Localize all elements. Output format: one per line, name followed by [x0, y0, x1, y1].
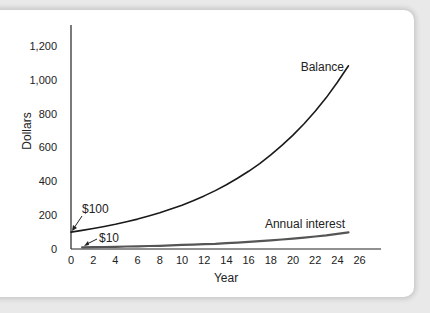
x-tick-label: 16 [242, 254, 254, 266]
y-tick-label: 600 [39, 141, 57, 153]
y-tick-label: 800 [39, 108, 57, 120]
x-axis-label: Year [214, 271, 238, 285]
x-tick-label: 18 [265, 254, 277, 266]
y-tick-label: 200 [39, 209, 57, 221]
x-tick-label: 14 [220, 254, 232, 266]
x-tick-label: 8 [157, 254, 163, 266]
compound-interest-chart: 02004006008001,0001,200 0246810121416182… [0, 0, 430, 313]
balance-series-label: Balance [301, 60, 345, 74]
y-tick-label: 0 [51, 243, 57, 255]
x-tick-label: 4 [112, 254, 118, 266]
x-tick-label: 24 [331, 254, 343, 266]
y-axis-label: Dollars [20, 112, 34, 149]
x-tick-label: 22 [309, 254, 321, 266]
balance-line [71, 66, 349, 232]
x-tick-label: 20 [287, 254, 299, 266]
axes [71, 25, 381, 249]
x-tick-label: 10 [176, 254, 188, 266]
annual-interest-line [82, 232, 348, 247]
x-tick-label: 2 [90, 254, 96, 266]
start-balance-annotation: $100 [82, 202, 109, 216]
interest-series-label: Annual interest [265, 217, 346, 231]
y-tick-label: 1,200 [29, 40, 57, 52]
x-tick-label: 12 [198, 254, 210, 266]
y-tick-label: 400 [39, 175, 57, 187]
x-tick-label: 0 [68, 254, 74, 266]
x-tick-label: 6 [135, 254, 141, 266]
y-tick-label: 1,000 [29, 74, 57, 86]
x-tick-label: 26 [353, 254, 365, 266]
start-interest-annotation: $10 [99, 231, 119, 245]
x-tick-labels: 02468101214161820222426 [68, 254, 366, 266]
